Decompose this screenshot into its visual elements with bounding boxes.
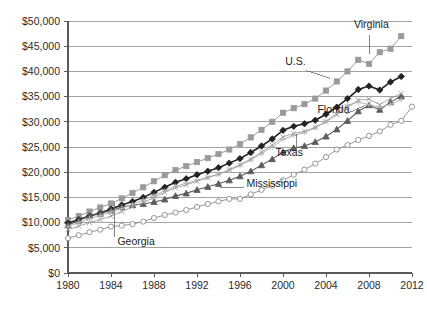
data-series	[65, 34, 415, 241]
chart-container: $0$5,000$10,000$15,000$20,000$25,000$30,…	[0, 0, 427, 316]
x-axis-tick-labels: 198019841988199219962000200420082012	[56, 279, 424, 291]
series-florida	[65, 97, 403, 229]
series-marker	[280, 110, 285, 115]
series-marker	[291, 123, 297, 129]
y-axis-tick-label: $45,000	[22, 40, 60, 52]
series-marker	[323, 88, 328, 93]
series-label-georgia: Georgia	[117, 235, 155, 247]
series-marker	[194, 160, 199, 165]
x-axis-tick-label: 2004	[314, 279, 338, 291]
series-marker	[356, 137, 361, 142]
label-leader-lines	[114, 35, 369, 237]
series-marker	[291, 106, 296, 111]
series-marker	[215, 164, 221, 170]
x-axis-tick-label: 1980	[56, 279, 80, 291]
series-marker	[227, 196, 232, 201]
series-marker	[248, 135, 253, 140]
y-axis-tick-label: $0	[48, 267, 60, 279]
series-marker	[151, 179, 156, 184]
series-marker	[87, 230, 92, 235]
series-marker	[227, 147, 232, 152]
series-marker	[237, 173, 243, 179]
series-marker	[409, 104, 414, 109]
series-marker	[388, 46, 393, 51]
series-marker	[173, 168, 178, 173]
y-axis-tick-label: $35,000	[22, 90, 60, 102]
y-axis-tick-label: $40,000	[22, 65, 60, 77]
series-marker	[162, 212, 167, 217]
series-marker	[226, 160, 232, 166]
series-marker	[334, 79, 339, 84]
series-marker	[141, 185, 146, 190]
series-us	[65, 73, 405, 226]
series-marker	[270, 119, 275, 124]
series-label-texas: Texas	[275, 146, 302, 158]
series-marker	[399, 118, 404, 123]
series-marker	[334, 147, 339, 152]
series-marker	[162, 173, 167, 178]
series-label-mississippi: Mississippi	[246, 177, 297, 189]
series-marker	[366, 61, 371, 66]
series-marker	[312, 117, 318, 123]
series-marker	[388, 122, 393, 127]
series-marker	[98, 227, 103, 232]
series-marker	[130, 222, 135, 227]
y-axis-tick-label: $15,000	[22, 191, 60, 203]
series-marker	[108, 224, 113, 229]
y-axis-tick-label: $50,000	[22, 15, 60, 27]
series-marker	[248, 168, 254, 174]
y-axis-tick-label: $5,000	[28, 242, 60, 254]
series-marker	[216, 199, 221, 204]
y-axis-tick-label: $25,000	[22, 141, 60, 153]
series-marker	[248, 192, 253, 197]
series-marker	[205, 201, 210, 206]
series-marker	[366, 133, 371, 138]
y-axis-tick-labels: $0$5,000$10,000$15,000$20,000$25,000$30,…	[22, 15, 60, 279]
series-marker	[237, 155, 243, 161]
y-axis-tick-label: $10,000	[22, 216, 60, 228]
y-axis-tick-label: $30,000	[22, 116, 60, 128]
series-marker	[173, 210, 178, 215]
series-marker	[345, 69, 350, 74]
series-marker	[399, 34, 404, 39]
series-marker	[130, 190, 135, 195]
series-label-us: U.S.	[285, 55, 305, 67]
x-axis-tick-label: 1984	[99, 279, 123, 291]
x-axis-tick-label: 2012	[400, 279, 424, 291]
series-marker	[184, 164, 189, 169]
series-marker	[323, 133, 329, 139]
series-line	[68, 100, 401, 227]
x-axis-tick-label: 2000	[271, 279, 295, 291]
series-marker	[398, 73, 404, 79]
x-axis-tick-label: 2008	[357, 279, 381, 291]
series-marker	[302, 102, 307, 107]
series-marker	[302, 167, 307, 172]
series-marker	[119, 196, 124, 201]
series-virginia	[65, 34, 403, 223]
x-axis-tick-label: 1996	[228, 279, 252, 291]
series-marker	[205, 155, 210, 160]
series-marker	[216, 151, 221, 156]
series-marker	[377, 50, 382, 55]
series-marker	[259, 127, 264, 132]
series-line	[68, 76, 401, 223]
series-marker	[141, 219, 146, 224]
x-axis-tick-label: 1992	[185, 279, 209, 291]
series-labels: VirginiaU.S.TexasFloridaGeorgiaMississip…	[117, 18, 388, 247]
series-marker	[377, 129, 382, 134]
series-marker	[237, 141, 242, 146]
series-marker	[184, 207, 189, 212]
series-marker	[356, 57, 361, 62]
series-marker	[313, 161, 318, 166]
series-marker	[366, 83, 372, 89]
series-marker	[119, 223, 124, 228]
series-marker	[312, 139, 318, 145]
y-axis-tick-label: $20,000	[22, 166, 60, 178]
series-marker	[345, 142, 350, 147]
series-line	[68, 36, 401, 220]
line-chart: $0$5,000$10,000$15,000$20,000$25,000$30,…	[0, 0, 427, 316]
series-marker	[258, 162, 264, 168]
x-axis-tick-label: 1988	[142, 279, 166, 291]
series-marker	[151, 215, 156, 220]
series-marker	[237, 196, 242, 201]
